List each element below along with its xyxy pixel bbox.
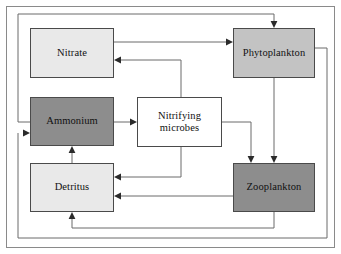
node-zooplankton[interactable]: Zooplankton bbox=[233, 163, 315, 212]
node-nitrifying-microbes[interactable]: Nitrifying microbes bbox=[137, 97, 222, 147]
edge-nitrifying-to-zooplankton bbox=[222, 122, 251, 159]
arrowhead-phytoplankton-left bbox=[226, 39, 233, 46]
edge-zooplankton-to-detritus-bottom bbox=[72, 212, 274, 228]
node-detritus[interactable]: Detritus bbox=[30, 163, 114, 212]
arrowhead-detritus-bottom bbox=[69, 212, 76, 219]
node-phytoplankton-label: Phytoplankton bbox=[241, 47, 308, 59]
node-nitrate[interactable]: Nitrate bbox=[30, 28, 114, 78]
arrowhead-zooplankton-top-left bbox=[248, 156, 255, 163]
edge-nitrifying-to-detritus bbox=[118, 147, 181, 177]
arrowhead-phytoplankton-top bbox=[271, 21, 278, 28]
arrowhead-nitrifying-left bbox=[130, 119, 137, 126]
nitrogen-cycle-diagram: Nitrate Phytoplankton Ammonium Nitrifyin… bbox=[0, 0, 341, 254]
node-nitrifying-microbes-label: Nitrifying microbes bbox=[156, 110, 203, 134]
node-detritus-label: Detritus bbox=[53, 181, 92, 193]
arrowhead-ammonium-bottom bbox=[69, 146, 76, 153]
node-zooplankton-label: Zooplankton bbox=[245, 181, 304, 193]
node-phytoplankton[interactable]: Phytoplankton bbox=[233, 28, 315, 78]
arrowhead-zooplankton-top-right bbox=[271, 156, 278, 163]
node-nitrate-label: Nitrate bbox=[55, 47, 89, 59]
arrowhead-detritus-right-upper bbox=[114, 174, 121, 181]
edge-nitrifying-to-nitrate bbox=[118, 60, 181, 97]
node-ammonium-label: Ammonium bbox=[44, 115, 100, 127]
arrowhead-nitrate-right bbox=[114, 57, 121, 64]
node-ammonium[interactable]: Ammonium bbox=[30, 97, 114, 146]
arrowhead-detritus-right-lower bbox=[114, 193, 121, 200]
arrowhead-ammonium-left bbox=[23, 130, 30, 137]
